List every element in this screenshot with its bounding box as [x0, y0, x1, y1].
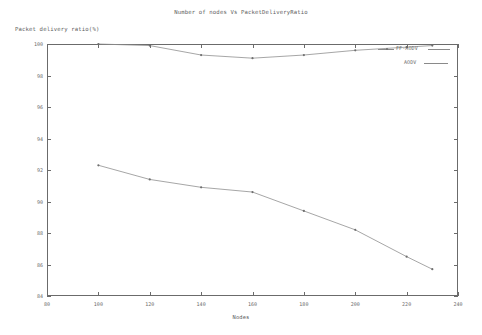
y-tick-mark — [47, 233, 51, 234]
data-point-AODV-230 — [431, 268, 433, 270]
x-tick-mark — [98, 292, 99, 296]
y-tick-mark-right — [454, 233, 458, 234]
legend-marker-0 — [386, 48, 388, 50]
data-point-AODV-160 — [251, 191, 253, 193]
data-point-FF-AODV-230 — [431, 44, 433, 46]
y-tick-mark — [47, 296, 51, 297]
y-tick-mark — [47, 170, 51, 171]
legend-item-1: AODV — [404, 59, 416, 65]
x-tick-80: 80 — [44, 301, 50, 307]
x-tick-100: 100 — [94, 301, 103, 307]
x-tick-220: 220 — [402, 301, 411, 307]
y-tick-mark-right — [454, 170, 458, 171]
y-tick-mark — [47, 76, 51, 77]
data-point-AODV-100 — [97, 164, 99, 166]
x-tick-mark-top — [150, 44, 151, 48]
x-tick-mark — [304, 292, 305, 296]
x-tick-240: 240 — [453, 301, 462, 307]
chart-figure: Number of nodes Vs PacketDeliveryRatio P… — [0, 0, 482, 335]
x-tick-mark-top — [201, 44, 202, 48]
x-tick-mark — [458, 292, 459, 296]
x-tick-mark — [407, 292, 408, 296]
y-tick-mark-right — [454, 202, 458, 203]
series-layer — [47, 44, 458, 296]
x-tick-mark — [253, 292, 254, 296]
series-line-FF-AODV — [98, 44, 432, 58]
data-point-AODV-220 — [406, 256, 408, 258]
x-tick-mark — [201, 292, 202, 296]
data-point-AODV-180 — [303, 210, 305, 212]
x-tick-180: 180 — [299, 301, 308, 307]
data-point-FF-AODV-200 — [354, 49, 356, 51]
x-tick-mark-top — [355, 44, 356, 48]
x-tick-200: 200 — [351, 301, 360, 307]
data-point-FF-AODV-140 — [200, 54, 202, 56]
y-tick-mark-right — [454, 296, 458, 297]
y-tick-mark — [47, 202, 51, 203]
y-tick-mark-right — [454, 76, 458, 77]
y-tick-mark — [47, 107, 51, 108]
y-tick-mark-right — [454, 139, 458, 140]
data-point-FF-AODV-160 — [251, 57, 253, 59]
x-tick-mark-top — [47, 44, 48, 48]
data-point-FF-AODV-180 — [303, 54, 305, 56]
x-tick-mark — [150, 292, 151, 296]
x-tick-mark-top — [304, 44, 305, 48]
x-tick-120: 120 — [145, 301, 154, 307]
x-axis-label: Nodes — [0, 314, 482, 320]
y-tick-mark-right — [454, 265, 458, 266]
legend-line-1 — [424, 63, 448, 64]
x-tick-140: 140 — [197, 301, 206, 307]
y-tick-mark-right — [454, 107, 458, 108]
x-tick-mark-top — [458, 44, 459, 48]
legend-item-0: FF-AODV — [396, 45, 418, 51]
series-line-AODV — [98, 165, 432, 269]
y-tick-mark — [47, 265, 51, 266]
plot-area — [47, 44, 458, 296]
x-tick-mark — [47, 292, 48, 296]
data-point-AODV-120 — [149, 178, 151, 180]
data-point-AODV-140 — [200, 186, 202, 188]
legend-line-0b — [428, 49, 450, 50]
data-point-AODV-200 — [354, 229, 356, 231]
x-tick-160: 160 — [248, 301, 257, 307]
x-tick-mark-top — [253, 44, 254, 48]
y-tick-mark — [47, 139, 51, 140]
x-tick-mark-top — [98, 44, 99, 48]
x-tick-mark — [355, 292, 356, 296]
